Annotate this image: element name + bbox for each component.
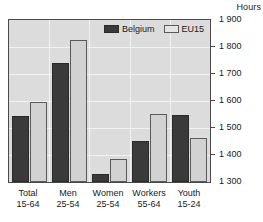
bar-chart: Hours 1 9001 8001 7001 6001 5001 4001 30… <box>0 0 263 222</box>
bar-belgium[interactable] <box>132 141 149 182</box>
x-category-line2: 15-24 <box>169 199 209 210</box>
y-tick-mark <box>211 19 215 20</box>
x-category-line2: 25-54 <box>88 199 128 210</box>
bar-group <box>92 20 127 182</box>
y-tick-mark <box>211 73 215 74</box>
x-axis-category-label: Youth15-24 <box>169 188 209 210</box>
bar-eu15[interactable] <box>110 159 127 182</box>
x-axis-category-label: Total15-64 <box>8 188 48 210</box>
y-tick-label: 1 300 <box>219 176 242 186</box>
x-category-line1: Women <box>88 188 128 199</box>
x-category-line1: Total <box>8 188 48 199</box>
bar-eu15[interactable] <box>70 40 87 182</box>
y-tick-label: 1 800 <box>219 41 242 51</box>
y-axis: 1 9001 8001 7001 6001 5001 4001 300 <box>211 19 263 183</box>
y-tick-label: 1 500 <box>219 122 242 132</box>
bars-layer <box>9 20 210 182</box>
y-tick-mark <box>211 154 215 155</box>
bar-belgium[interactable] <box>92 174 109 182</box>
chart-legend: Belgium EU15 <box>104 24 204 34</box>
x-category-line1: Workers <box>129 188 169 199</box>
y-tick-label: 1 400 <box>219 149 242 159</box>
legend-label-belgium: Belgium <box>122 24 155 34</box>
bar-eu15[interactable] <box>30 102 47 182</box>
x-axis: Total15-64Men25-54Women25-54Workers55-64… <box>8 188 211 218</box>
y-tick-mark <box>211 46 215 47</box>
bar-group <box>132 20 167 182</box>
legend-item-belgium: Belgium <box>104 24 155 34</box>
bar-eu15[interactable] <box>190 138 207 182</box>
y-tick-mark <box>211 127 215 128</box>
legend-item-eu15: EU15 <box>164 24 205 34</box>
y-axis-unit-label: Hours <box>236 2 261 12</box>
legend-swatch-belgium-icon <box>104 25 119 33</box>
x-category-line2: 55-64 <box>129 199 169 210</box>
bar-group <box>12 20 47 182</box>
y-tick-label: 1 900 <box>219 14 242 24</box>
x-category-line1: Men <box>48 188 88 199</box>
y-tick-mark <box>211 100 215 101</box>
y-tick-label: 1 700 <box>219 68 242 78</box>
bar-group <box>172 20 207 182</box>
bar-belgium[interactable] <box>12 116 29 182</box>
y-tick-mark <box>211 181 215 182</box>
x-axis-category-label: Women25-54 <box>88 188 128 210</box>
bar-belgium[interactable] <box>52 63 69 182</box>
x-category-line2: 15-64 <box>8 199 48 210</box>
y-tick-label: 1 600 <box>219 95 242 105</box>
bar-eu15[interactable] <box>150 114 167 182</box>
x-category-line1: Youth <box>169 188 209 199</box>
bar-group <box>52 20 87 182</box>
bar-belgium[interactable] <box>172 115 189 182</box>
legend-label-eu15: EU15 <box>182 24 205 34</box>
x-axis-category-label: Workers55-64 <box>129 188 169 210</box>
x-category-line2: 25-54 <box>48 199 88 210</box>
x-axis-category-label: Men25-54 <box>48 188 88 210</box>
plot-area <box>8 19 211 183</box>
legend-swatch-eu15-icon <box>164 25 179 33</box>
